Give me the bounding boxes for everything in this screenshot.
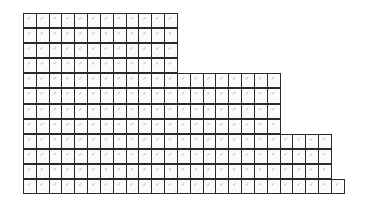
grid-cell[interactable]: ✓ bbox=[36, 179, 50, 194]
grid-cell[interactable]: ✓ bbox=[49, 149, 63, 164]
grid-cell[interactable]: ✓ bbox=[113, 88, 127, 103]
grid-cell[interactable]: ✓ bbox=[254, 149, 268, 164]
grid-cell[interactable]: ✓ bbox=[87, 73, 101, 88]
grid-cell[interactable]: ✓ bbox=[126, 43, 140, 58]
grid-cell[interactable]: ✓ bbox=[164, 88, 178, 103]
grid-cell[interactable]: ✓ bbox=[36, 149, 50, 164]
grid-cell[interactable]: ✓ bbox=[177, 73, 191, 88]
grid-cell[interactable]: ✓ bbox=[49, 58, 63, 73]
grid-cell[interactable]: ✓ bbox=[203, 104, 217, 119]
grid-cell[interactable]: ✓ bbox=[151, 149, 165, 164]
grid-cell[interactable]: ✓ bbox=[100, 43, 114, 58]
grid-cell[interactable]: ✓ bbox=[113, 58, 127, 73]
grid-cell[interactable]: ✓ bbox=[100, 119, 114, 134]
grid-cell[interactable]: ✓ bbox=[49, 28, 63, 43]
grid-cell[interactable]: ✓ bbox=[87, 13, 101, 28]
grid-cell[interactable]: ✓ bbox=[228, 73, 242, 88]
grid-cell[interactable]: ✓ bbox=[87, 43, 101, 58]
grid-cell[interactable]: ✓ bbox=[177, 179, 191, 194]
grid-cell[interactable]: ✓ bbox=[61, 164, 75, 179]
grid-cell[interactable]: ✓ bbox=[74, 43, 88, 58]
grid-cell[interactable]: ✓ bbox=[126, 88, 140, 103]
grid-cell[interactable]: ✓ bbox=[126, 73, 140, 88]
grid-cell[interactable]: ✓ bbox=[138, 73, 152, 88]
grid-cell[interactable]: ✓ bbox=[215, 134, 229, 149]
grid-cell[interactable]: ✓ bbox=[151, 104, 165, 119]
grid-cell[interactable]: ✓ bbox=[203, 164, 217, 179]
grid-cell[interactable]: ✓ bbox=[151, 73, 165, 88]
grid-cell[interactable]: ✓ bbox=[203, 149, 217, 164]
grid-cell[interactable]: ✓ bbox=[87, 179, 101, 194]
grid-cell[interactable]: ✓ bbox=[23, 43, 37, 58]
grid-cell[interactable]: ✓ bbox=[190, 88, 204, 103]
grid-cell[interactable]: ✓ bbox=[177, 119, 191, 134]
grid-cell[interactable]: ✓ bbox=[49, 43, 63, 58]
grid-cell[interactable]: ✓ bbox=[267, 88, 281, 103]
grid-cell[interactable]: ✓ bbox=[74, 104, 88, 119]
grid-cell[interactable]: ✓ bbox=[215, 88, 229, 103]
grid-cell[interactable]: ✓ bbox=[100, 179, 114, 194]
grid-cell[interactable]: ✓ bbox=[126, 104, 140, 119]
grid-cell[interactable]: ✓ bbox=[228, 119, 242, 134]
grid-cell[interactable]: ✓ bbox=[100, 28, 114, 43]
grid-cell[interactable]: ✓ bbox=[241, 134, 255, 149]
grid-cell[interactable]: ✓ bbox=[61, 58, 75, 73]
grid-cell[interactable]: ✓ bbox=[74, 149, 88, 164]
grid-cell[interactable]: ✓ bbox=[138, 149, 152, 164]
grid-cell[interactable]: ✓ bbox=[228, 134, 242, 149]
grid-cell[interactable]: ✓ bbox=[305, 179, 319, 194]
grid-cell[interactable]: ✓ bbox=[190, 73, 204, 88]
grid-cell[interactable]: ✓ bbox=[254, 88, 268, 103]
grid-cell[interactable]: ✓ bbox=[113, 134, 127, 149]
grid-cell[interactable]: ✓ bbox=[164, 119, 178, 134]
grid-cell[interactable]: ✓ bbox=[100, 58, 114, 73]
grid-cell[interactable]: ✓ bbox=[36, 13, 50, 28]
grid-cell[interactable]: ✓ bbox=[126, 164, 140, 179]
grid-cell[interactable]: ✓ bbox=[49, 119, 63, 134]
grid-cell[interactable]: ✓ bbox=[318, 164, 332, 179]
grid-cell[interactable]: ✓ bbox=[113, 119, 127, 134]
grid-cell[interactable]: ✓ bbox=[138, 104, 152, 119]
grid-cell[interactable]: ✓ bbox=[280, 134, 294, 149]
grid-cell[interactable]: ✓ bbox=[292, 134, 306, 149]
grid-cell[interactable]: ✓ bbox=[138, 28, 152, 43]
grid-cell[interactable]: ✓ bbox=[151, 28, 165, 43]
grid-cell[interactable]: ✓ bbox=[164, 73, 178, 88]
grid-cell[interactable]: ✓ bbox=[241, 119, 255, 134]
grid-cell[interactable]: ✓ bbox=[36, 73, 50, 88]
grid-cell[interactable]: ✓ bbox=[241, 104, 255, 119]
grid-cell[interactable]: ✓ bbox=[203, 134, 217, 149]
grid-cell[interactable]: ✓ bbox=[49, 179, 63, 194]
grid-cell[interactable]: ✓ bbox=[190, 119, 204, 134]
grid-cell[interactable]: ✓ bbox=[61, 88, 75, 103]
grid-cell[interactable]: ✓ bbox=[177, 164, 191, 179]
grid-cell[interactable]: ✓ bbox=[305, 164, 319, 179]
grid-cell[interactable]: ✓ bbox=[100, 73, 114, 88]
grid-cell[interactable]: ✓ bbox=[164, 149, 178, 164]
grid-cell[interactable]: ✓ bbox=[241, 179, 255, 194]
grid-cell[interactable]: ✓ bbox=[267, 119, 281, 134]
grid-cell[interactable]: ✓ bbox=[190, 134, 204, 149]
grid-cell[interactable]: ✓ bbox=[177, 134, 191, 149]
grid-cell[interactable]: ✓ bbox=[61, 149, 75, 164]
grid-cell[interactable]: ✓ bbox=[49, 134, 63, 149]
grid-cell[interactable]: ✓ bbox=[61, 13, 75, 28]
grid-cell[interactable]: ✓ bbox=[228, 179, 242, 194]
grid-cell[interactable]: ✓ bbox=[23, 134, 37, 149]
grid-cell[interactable]: ✓ bbox=[23, 58, 37, 73]
grid-cell[interactable]: ✓ bbox=[164, 13, 178, 28]
grid-cell[interactable]: ✓ bbox=[87, 58, 101, 73]
grid-cell[interactable]: ✓ bbox=[254, 104, 268, 119]
grid-cell[interactable]: ✓ bbox=[292, 149, 306, 164]
grid-cell[interactable]: ✓ bbox=[100, 164, 114, 179]
grid-cell[interactable]: ✓ bbox=[23, 164, 37, 179]
grid-cell[interactable]: ✓ bbox=[164, 164, 178, 179]
grid-cell[interactable]: ✓ bbox=[36, 164, 50, 179]
grid-cell[interactable]: ✓ bbox=[164, 43, 178, 58]
grid-cell[interactable]: ✓ bbox=[61, 28, 75, 43]
grid-cell[interactable]: ✓ bbox=[138, 58, 152, 73]
grid-cell[interactable]: ✓ bbox=[23, 149, 37, 164]
grid-cell[interactable]: ✓ bbox=[151, 119, 165, 134]
grid-cell[interactable]: ✓ bbox=[228, 88, 242, 103]
grid-cell[interactable]: ✓ bbox=[126, 134, 140, 149]
